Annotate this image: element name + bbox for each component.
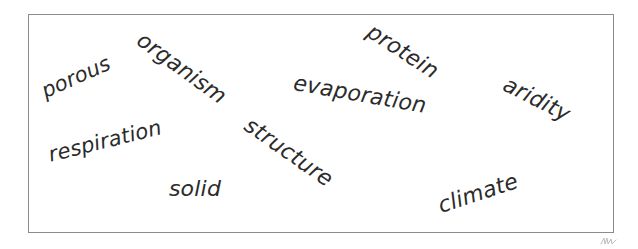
word-field-border (28, 14, 614, 233)
pencil-scribble-mark (600, 236, 620, 246)
word-cloud-canvas: porousorganismproteinevaporationaridityr… (0, 0, 638, 249)
word-cloud-item: solid (169, 176, 221, 201)
